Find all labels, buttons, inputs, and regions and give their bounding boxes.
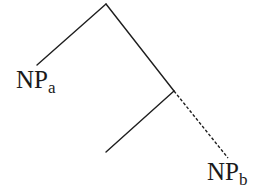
np-b-subscript: b <box>239 170 248 189</box>
edge-inner-to-unlabeled-leaf <box>106 91 174 152</box>
node-label-np-a: NPa <box>16 66 56 97</box>
node-label-np-b: NPb <box>207 158 247 189</box>
edge-root-to-inner-node <box>106 4 174 91</box>
np-a-main: NP <box>16 66 48 93</box>
edge-inner-to-np-b-dashed <box>174 91 228 158</box>
np-a-subscript: a <box>48 78 56 97</box>
np-b-main: NP <box>207 158 239 185</box>
edge-root-to-np-a <box>37 4 106 65</box>
syntax-tree-diagram: NPa NPb <box>0 0 263 196</box>
